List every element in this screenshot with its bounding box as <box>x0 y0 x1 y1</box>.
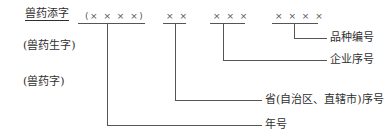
segment-province-leader <box>175 100 262 101</box>
prefix-shengzi: (兽药生字) <box>23 40 76 52</box>
segment-province-label: 省(自治区、直辖市)序号 <box>265 94 384 106</box>
segment-year-leader <box>107 125 262 126</box>
segment-province-connector <box>175 23 176 100</box>
segment-year-underline <box>78 23 145 24</box>
segment-enterprise-underline <box>210 23 245 24</box>
segment-product-underline <box>272 23 318 24</box>
segment-enterprise-placeholder: × × × <box>213 10 249 22</box>
segment-product-connector <box>294 23 295 38</box>
segment-province-placeholder: × × <box>166 10 188 22</box>
segment-product-leader <box>294 38 327 39</box>
segment-year-placeholder: (× × × ×) <box>85 10 144 22</box>
segment-year-connector <box>107 23 108 125</box>
segment-enterprise-label: 企业序号 <box>330 54 374 66</box>
segment-product-placeholder: × × × × <box>275 10 324 22</box>
prefix-yaozi: (兽药字) <box>23 76 65 88</box>
prefix-tianzi: 兽药添字 <box>25 8 69 20</box>
segment-year-label: 年号 <box>265 119 287 131</box>
segment-product-label: 品种编号 <box>330 32 374 44</box>
segment-enterprise-connector <box>223 23 224 60</box>
segment-enterprise-leader <box>223 60 327 61</box>
